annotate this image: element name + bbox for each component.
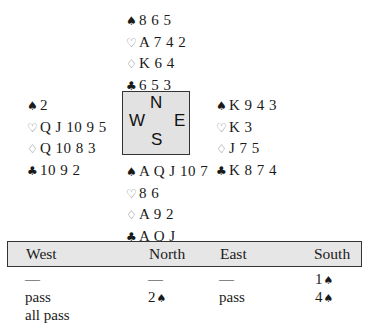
east-hearts: ♡K 3 (216, 117, 277, 139)
spade-icon: ♠ (126, 162, 139, 183)
north-hearts: ♡A 7 4 2 (126, 32, 186, 54)
header-south: South (314, 245, 350, 263)
south-spades: ♠A Q J 10 7 (126, 161, 208, 183)
south-hand: ♠A Q J 10 7 ♡8 6 ♢A 9 2 ♣A Q J (126, 161, 208, 247)
west-spades: ♠2 (27, 95, 107, 117)
west-hand: ♠2 ♡Q J 10 9 5 ♢Q 10 8 3 ♣10 9 2 (27, 95, 107, 181)
west-hearts: ♡Q J 10 9 5 (27, 117, 107, 139)
bid-cell: pass (219, 288, 245, 306)
east-clubs: ♣K 8 7 4 (216, 160, 277, 182)
bid-cell: 1♠ (315, 270, 333, 290)
compass-box: N W E S (122, 91, 190, 155)
east-hand: ♠K 9 4 3 ♡K 3 ♢J 7 5 ♣K 8 7 4 (216, 95, 277, 181)
south-hearts: ♡8 6 (126, 183, 208, 205)
heart-icon: ♡ (27, 118, 40, 139)
heart-icon: ♡ (126, 33, 139, 54)
bid-cell: 2♠ (148, 288, 166, 308)
west-diamonds: ♢Q 10 8 3 (27, 138, 107, 160)
header-east: East (220, 245, 247, 263)
diamond-icon: ♢ (216, 139, 229, 160)
south-diamonds: ♢A 9 2 (126, 204, 208, 226)
club-icon: ♣ (27, 161, 40, 182)
spade-icon: ♠ (27, 96, 40, 117)
north-hand: ♠8 6 5 ♡A 7 4 2 ♢K 6 4 ♣6 5 3 (126, 10, 186, 96)
north-diamonds: ♢K 6 4 (126, 53, 186, 75)
club-icon: ♣ (216, 161, 229, 182)
bid-cell: 4♠ (315, 288, 333, 308)
bid-cell: — (25, 270, 40, 288)
compass-north: N (150, 93, 162, 113)
heart-icon: ♡ (216, 118, 229, 139)
north-spades: ♠8 6 5 (126, 10, 186, 32)
bid-cell: pass (25, 288, 51, 306)
spade-icon: ♠ (126, 11, 139, 32)
east-diamonds: ♢J 7 5 (216, 138, 277, 160)
east-spades: ♠K 9 4 3 (216, 95, 277, 117)
spade-icon: ♠ (157, 290, 167, 308)
heart-icon: ♡ (126, 184, 139, 205)
spade-icon: ♠ (216, 96, 229, 117)
compass-east: E (174, 111, 185, 131)
bid-cell: — (219, 270, 234, 288)
bid-cell: all pass (25, 306, 70, 324)
bid-cell: — (148, 270, 163, 288)
diamond-icon: ♢ (27, 139, 40, 160)
diamond-icon: ♢ (126, 54, 139, 75)
compass-west: W (129, 111, 145, 131)
spade-icon: ♠ (324, 290, 334, 308)
header-north: North (149, 245, 185, 263)
west-clubs: ♣10 9 2 (27, 160, 107, 182)
header-west: West (26, 245, 57, 263)
compass-south: S (151, 130, 162, 150)
diamond-icon: ♢ (126, 205, 139, 226)
bidding-header: West North East South (7, 241, 362, 267)
